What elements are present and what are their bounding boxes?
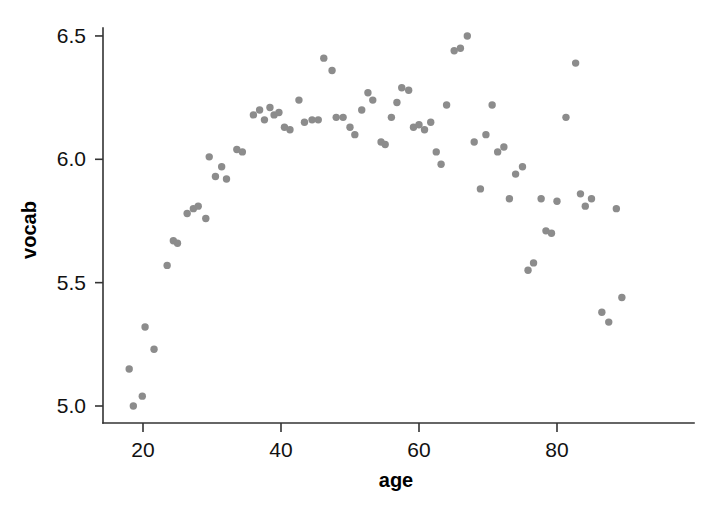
data-point	[275, 109, 282, 116]
data-point	[369, 96, 376, 103]
data-point	[320, 54, 327, 61]
data-point	[457, 45, 464, 52]
data-point	[239, 148, 246, 155]
data-point	[141, 323, 148, 330]
x-tick-label: 80	[545, 438, 568, 461]
data-point	[339, 114, 346, 121]
data-point	[588, 195, 595, 202]
y-axis-title: vocab	[18, 201, 40, 259]
data-point	[286, 126, 293, 133]
data-point	[471, 138, 478, 145]
data-point	[250, 111, 257, 118]
data-point	[519, 163, 526, 170]
data-point	[598, 309, 605, 316]
data-point	[405, 87, 412, 94]
y-tick-label: 6.0	[57, 147, 86, 170]
x-tick-label: 20	[131, 438, 154, 461]
data-point	[126, 365, 133, 372]
data-point	[553, 198, 560, 205]
data-point	[443, 101, 450, 108]
data-point	[393, 99, 400, 106]
data-point	[477, 185, 484, 192]
data-point	[333, 114, 340, 121]
data-point	[488, 101, 495, 108]
y-tick-label: 6.5	[57, 24, 86, 47]
data-point	[266, 104, 273, 111]
data-point	[206, 153, 213, 160]
y-tick-label: 5.5	[57, 271, 86, 294]
data-point	[500, 143, 507, 150]
data-point	[388, 114, 395, 121]
data-point	[212, 173, 219, 180]
data-point	[506, 195, 513, 202]
data-point	[351, 131, 358, 138]
data-point	[530, 259, 537, 266]
data-point	[494, 148, 501, 155]
data-point	[328, 67, 335, 74]
y-tick-label: 5.0	[57, 394, 86, 417]
data-point	[482, 131, 489, 138]
data-point	[415, 121, 422, 128]
data-point	[364, 89, 371, 96]
data-point	[223, 175, 230, 182]
scatter-plot-figure: 5.05.56.06.5 20406080 vocab age	[0, 0, 712, 517]
data-point	[605, 318, 612, 325]
data-point	[163, 262, 170, 269]
data-point	[512, 170, 519, 177]
data-point	[381, 141, 388, 148]
data-point	[464, 32, 471, 39]
data-point	[582, 202, 589, 209]
data-point	[562, 114, 569, 121]
data-point	[577, 190, 584, 197]
data-point	[295, 96, 302, 103]
data-point	[130, 402, 137, 409]
data-point	[572, 59, 579, 66]
data-point	[548, 230, 555, 237]
data-point	[346, 124, 353, 131]
data-point	[537, 195, 544, 202]
data-point	[421, 126, 428, 133]
data-point	[437, 161, 444, 168]
data-point	[174, 239, 181, 246]
data-point	[613, 205, 620, 212]
data-point	[256, 106, 263, 113]
data-point	[433, 148, 440, 155]
data-point	[139, 392, 146, 399]
data-point	[218, 163, 225, 170]
data-point	[261, 116, 268, 123]
plot-canvas: 5.05.56.06.5 20406080 vocab age	[0, 0, 712, 517]
x-axis-title: age	[379, 469, 413, 491]
data-point	[183, 210, 190, 217]
x-tick-label: 60	[407, 438, 430, 461]
data-point	[150, 346, 157, 353]
data-point	[427, 119, 434, 126]
x-tick-label: 40	[269, 438, 292, 461]
data-point	[524, 267, 531, 274]
plot-background	[0, 0, 712, 517]
data-point	[301, 119, 308, 126]
data-point	[398, 84, 405, 91]
data-point	[315, 116, 322, 123]
data-point	[195, 202, 202, 209]
data-point	[618, 294, 625, 301]
data-point	[202, 215, 209, 222]
data-point	[358, 106, 365, 113]
